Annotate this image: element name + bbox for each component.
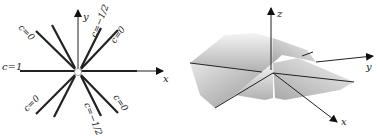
level-sets-diagram: x y c=1 c=0 c=−1/2 c=0 c=0 c=−1/2 c=0 xyxy=(0,0,180,136)
x-axis-label: x xyxy=(163,73,169,84)
y-axis-3d-label: y xyxy=(365,61,372,72)
label-upper-left: c=0 xyxy=(17,22,37,42)
x-axis-3d-label: x xyxy=(341,116,347,127)
label-lower-right-steep: c=−1/2 xyxy=(82,101,104,136)
label-c1: c=1 xyxy=(2,61,22,72)
origin-hole xyxy=(75,69,82,76)
z-axis-label: z xyxy=(276,8,283,19)
surface xyxy=(190,33,354,108)
y-axis-3d xyxy=(316,56,373,62)
y-axis-label: y xyxy=(82,11,89,22)
surface-3d-diagram: z y x xyxy=(180,0,377,136)
label-upper-right-steep: c=−1/2 xyxy=(89,3,111,39)
label-upper-right: c=0 xyxy=(108,24,127,45)
